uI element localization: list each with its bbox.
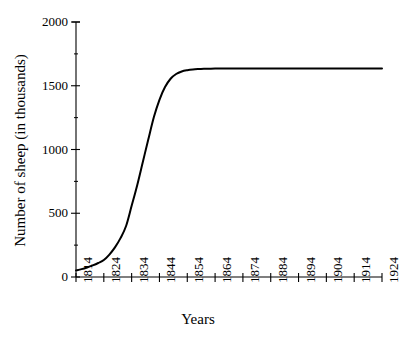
x-tick-label: 1884 [276, 257, 289, 283]
x-tick-label: 1914 [359, 257, 372, 283]
x-tick-label: 1864 [220, 257, 233, 283]
x-axis-title: Years [0, 311, 396, 328]
x-tick-label: 1844 [164, 257, 177, 283]
x-tick-label: 1824 [109, 257, 122, 283]
x-tick-label: 1924 [387, 257, 400, 283]
x-tick-label: 1814 [81, 257, 94, 283]
x-tick-label: 1874 [248, 257, 261, 283]
x-tick-label: 1834 [137, 257, 150, 283]
x-tick-label: 1854 [192, 257, 205, 283]
x-tick-label: 1904 [331, 257, 344, 283]
x-tick-label: 1894 [304, 257, 317, 283]
